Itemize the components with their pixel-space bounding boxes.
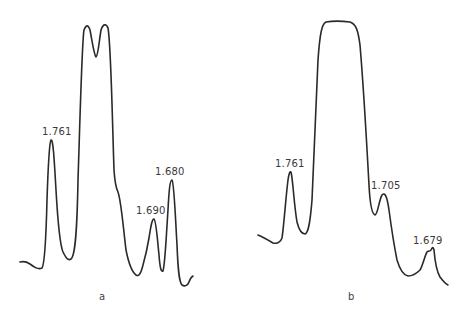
- peak-label-a-1761: 1.761: [42, 126, 72, 137]
- panel-caption-b: b: [348, 291, 354, 302]
- peak-label-b-1705: 1.705: [371, 180, 401, 191]
- panel-caption-a: a: [99, 291, 105, 302]
- peak-label-a-1690: 1.690: [136, 205, 166, 216]
- traces-canvas: [0, 0, 463, 316]
- density-profile-figure: 1.761 1.690 1.680 a 1.761 1.705 1.679 b: [0, 0, 463, 316]
- peak-label-a-1680: 1.680: [155, 166, 185, 177]
- panel-a-trace: [20, 25, 193, 286]
- peak-label-b-1761: 1.761: [275, 158, 305, 169]
- peak-label-b-1679: 1.679: [413, 235, 443, 246]
